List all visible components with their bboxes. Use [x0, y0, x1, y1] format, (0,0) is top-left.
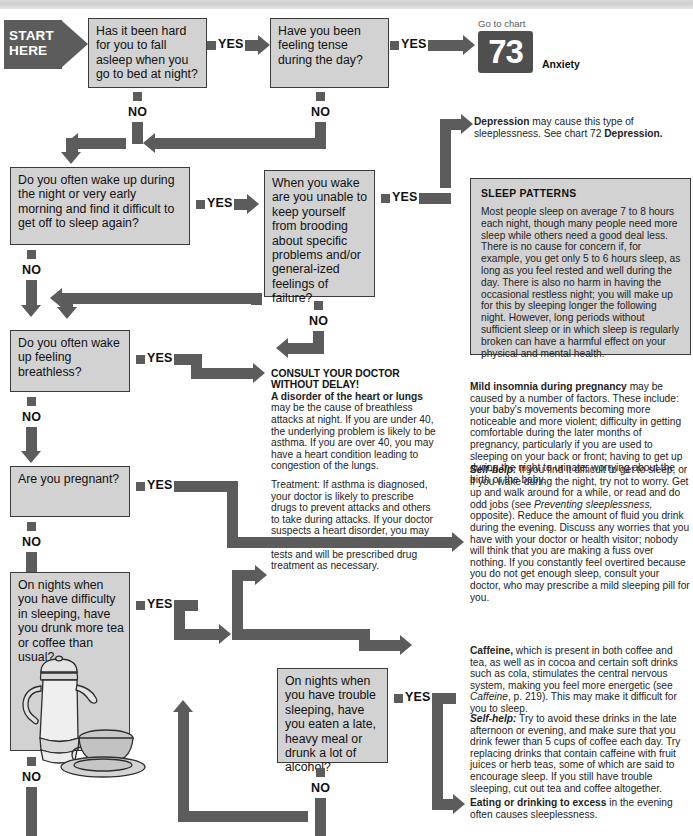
depression-callout: Depression may cause this type of sleepl…	[474, 116, 690, 139]
yes-label-8: YES	[405, 690, 431, 704]
connector-q2-yes-shaft	[428, 40, 464, 51]
rail-mid-horizontal	[62, 293, 262, 304]
connector-q4-no-head	[276, 338, 288, 358]
connector-q5-no-vert	[26, 427, 37, 452]
yes-label-7: YES	[147, 597, 173, 611]
no-label-q2: NO	[311, 105, 330, 119]
no-label-q5: NO	[22, 410, 41, 424]
question-4-text: When you wake are you unable to keep you…	[272, 176, 369, 306]
yes-label-2: YES	[401, 37, 427, 51]
start-here-marker: START HERE	[4, 20, 88, 69]
connector-q3-no-vert	[26, 280, 37, 306]
treatment-body: If asthma is diagnosed, your doctor is l…	[271, 479, 433, 571]
pregnancy-selfhelp-label: Self-help:	[470, 464, 516, 475]
caffeine-selfhelp-body: Try to avoid these drinks in the late af…	[470, 713, 680, 794]
no-label-q8: NO	[311, 781, 330, 795]
no-label-q6: NO	[22, 535, 41, 549]
connector-q5-yes-run	[191, 368, 254, 379]
connector-q3-yes-shaft	[234, 199, 248, 210]
no-marker-q4	[314, 301, 323, 310]
yes-marker-2	[390, 41, 399, 50]
connector-q6-yes-run	[227, 537, 453, 548]
start-marker-arrowhead	[61, 20, 88, 68]
rail-caffeine-upper-head	[400, 635, 412, 655]
caffeine-selfhelp: Self-help: Try to avoid these drinks in …	[470, 713, 690, 794]
chart-name-label: Anxiety	[542, 58, 580, 70]
connector-q7-yes-run	[174, 629, 220, 640]
yes-marker-7	[136, 601, 145, 610]
rail-arrowhead-into-q3	[61, 152, 81, 164]
connector-q1-yes-shaft	[245, 40, 259, 51]
rail-caffeine-upper-elbow	[359, 640, 401, 651]
caffeine-italic-ref: Caffeine	[470, 691, 508, 702]
question-box-6[interactable]: Are you pregnant?	[10, 466, 130, 517]
pregnancy-selfhelp-italic: Preventing sleeplessness,	[534, 499, 652, 510]
no-marker-q7	[27, 757, 36, 766]
sleep-patterns-body: Most people sleep on average 7 to 8 hour…	[481, 206, 681, 359]
no-marker-q3	[27, 250, 36, 259]
pregnancy-selfhelp-2: opposite). Reduce the amount of fluid yo…	[470, 510, 690, 602]
consult-treatment: Treatment: If asthma is diagnosed, your …	[271, 479, 439, 572]
yes-label-1: YES	[218, 37, 244, 51]
connector-depression-head	[461, 114, 473, 134]
connector-q7-yes-head	[219, 624, 231, 644]
depression-lead: Depression	[474, 116, 529, 127]
sleep-patterns-panel: SLEEP PATTERNS Most people sleep on aver…	[470, 178, 691, 355]
rail-top-arrowhead-mid	[143, 133, 155, 153]
connector-q8-yes-run	[432, 799, 454, 810]
eating-block: Eating or drinking to excess in the even…	[470, 797, 690, 820]
connector-q3-yes-head	[247, 194, 259, 214]
connector-q6-yes-head	[452, 532, 464, 552]
question-6-text: Are you pregnant?	[18, 472, 124, 486]
treatment-label: Treatment:	[271, 479, 320, 490]
yes-marker-6	[136, 482, 145, 491]
question-box-1[interactable]: Has it been hard for you to fall asleep …	[88, 18, 207, 88]
flowchart-page: START HERE Has it been hard for you to f…	[0, 0, 693, 836]
yes-marker-5	[136, 355, 145, 364]
rail-caffeine-top	[232, 570, 256, 581]
question-box-2[interactable]: Have you been feeling tense during the d…	[270, 18, 389, 88]
question-8-text: On nights when you have trouble sleeping…	[285, 674, 382, 775]
pregnancy-lead: Mild insomnia during pregnancy	[470, 381, 627, 392]
yes-label-5: YES	[147, 351, 173, 365]
yes-label-3: YES	[207, 196, 233, 210]
yes-marker-3	[196, 200, 205, 209]
no-marker-q5	[27, 397, 36, 406]
consult-body: A disorder of the heart or lungs may be …	[271, 391, 439, 472]
question-1-text: Has it been hard for you to fall asleep …	[96, 24, 201, 82]
connector-q1-no-vert	[132, 122, 143, 144]
rail-mid-arrowhead	[57, 307, 77, 319]
caffeine-lead: Caffeine,	[470, 645, 513, 656]
connector-q8-no-vert	[315, 798, 326, 836]
rail-top-horizontal-left	[78, 138, 126, 149]
start-here-label: START HERE	[9, 28, 65, 58]
goto-chart-caption: Go to chart	[478, 18, 525, 29]
question-box-3[interactable]: Do you often wake up during the night or…	[10, 167, 190, 245]
question-box-8[interactable]: On nights when you have trouble sleeping…	[277, 668, 388, 763]
connector-q4-no-horiz	[288, 343, 324, 354]
no-label-q7: NO	[22, 770, 41, 784]
rail-mid-riser	[251, 293, 262, 305]
yes-label-6: YES	[147, 478, 173, 492]
question-3-text: Do you often wake up during the night or…	[18, 173, 184, 231]
connector-q5-no-head	[21, 451, 41, 463]
consult-body-text: may be the cause of breathless attacks a…	[271, 402, 436, 471]
no-label-q4: NO	[309, 314, 328, 328]
rail-top-horizontal	[155, 138, 326, 149]
rail-caffeine-run	[232, 629, 292, 640]
question-5-text: Do you often wake up feeling breathless?	[18, 336, 124, 379]
consult-heading: CONSULT YOUR DOCTOR WITHOUT DELAY!	[271, 368, 439, 391]
no-label-q3: NO	[22, 263, 41, 277]
no-marker-q8	[316, 768, 325, 777]
scan-edge-bar	[0, 0, 693, 9]
rail-bottom-arrowhead	[173, 700, 193, 712]
connector-q1-yes-head	[258, 35, 270, 55]
connector-q5-yes-head	[253, 363, 265, 383]
question-2-text: Have you been feeling tense during the d…	[278, 24, 383, 67]
question-box-4[interactable]: When you wake are you unable to keep you…	[264, 170, 375, 297]
depression-ref: Depression.	[604, 128, 662, 139]
chart-number-badge: 73	[478, 31, 533, 73]
eating-lead: Eating or drinking to excess	[470, 797, 606, 808]
caffeine-block: Caffeine, which is present in both coffe…	[470, 645, 690, 715]
question-box-5[interactable]: Do you often wake up feeling breathless?	[10, 330, 130, 392]
